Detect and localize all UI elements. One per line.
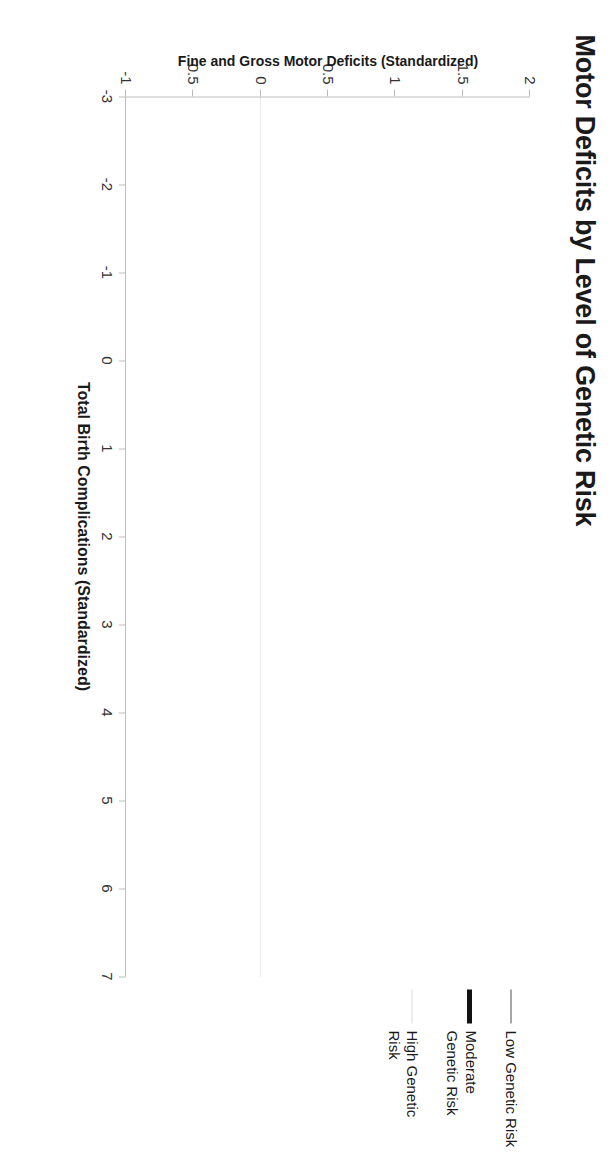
x-tick-label: -3 — [99, 76, 116, 116]
legend-label: Low Genetic Risk — [502, 1030, 520, 1147]
x-tick-label: 3 — [99, 604, 116, 644]
chart-figure: Motor Deficits by Level of Genetic Risk — [0, 0, 616, 1161]
plot-background — [126, 96, 530, 976]
chart-legend: Low Genetic Risk Moderate Genetic Risk H… — [363, 989, 520, 1149]
x-tick-label: -2 — [99, 164, 116, 204]
legend-item-moderate-genetic-risk: Moderate Genetic Risk — [443, 989, 480, 1149]
x-tick-mark — [119, 712, 126, 713]
x-tick-mark — [119, 184, 126, 185]
chart-title: Motor Deficits by Level of Genetic Risk — [569, 34, 600, 734]
y-tick-mark — [260, 89, 261, 96]
y-tick-mark — [394, 89, 395, 96]
legend-item-high-genetic-risk: High Genetic Risk — [385, 989, 422, 1149]
y-tick-mark — [529, 89, 530, 96]
legend-line-swatch-icon — [510, 989, 512, 1023]
y-axis-label: Fine and Gross Motor Deficits (Standardi… — [118, 52, 538, 68]
x-tick-label: 5 — [99, 780, 116, 820]
y-tick-mark — [125, 89, 126, 96]
rotated-page-canvas: Motor Deficits by Level of Genetic Risk — [0, 0, 616, 1161]
legend-label: Moderate Genetic Risk — [443, 1030, 480, 1149]
legend-line-swatch-icon — [411, 989, 413, 1023]
legend-item-low-genetic-risk: Low Genetic Risk — [502, 989, 520, 1149]
x-tick-mark — [119, 976, 126, 977]
x-tick-mark — [119, 800, 126, 801]
x-tick-label: 7 — [99, 956, 116, 996]
x-tick-mark — [119, 272, 126, 273]
y-tick-mark — [462, 89, 463, 96]
x-tick-label: 1 — [99, 428, 116, 468]
legend-line-swatch-icon — [467, 989, 472, 1023]
x-tick-mark — [119, 448, 126, 449]
y-axis-line — [126, 96, 530, 97]
gridline-y-zero — [260, 96, 261, 976]
x-tick-label: 6 — [99, 868, 116, 908]
x-tick-mark — [119, 888, 126, 889]
x-tick-label: -1 — [99, 252, 116, 292]
x-tick-label: 4 — [99, 692, 116, 732]
y-tick-mark — [192, 89, 193, 96]
x-tick-mark — [119, 536, 126, 537]
legend-label: High Genetic Risk — [385, 1030, 422, 1149]
x-tick-label: 2 — [99, 516, 116, 556]
x-tick-label: 0 — [99, 340, 116, 380]
plot-area — [126, 96, 530, 976]
x-tick-mark — [119, 624, 126, 625]
x-tick-mark — [119, 360, 126, 361]
x-axis-label: Total Birth Complications (Standardized) — [74, 96, 92, 976]
y-tick-mark — [327, 89, 328, 96]
